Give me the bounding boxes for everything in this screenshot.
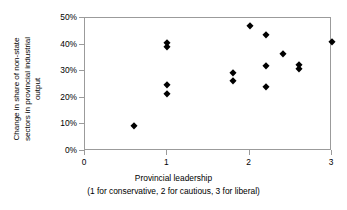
y-axis-tick-label: 40% xyxy=(44,39,77,48)
y-axis-tick-label: 10% xyxy=(44,119,77,128)
x-axis-tick-mark xyxy=(249,150,250,155)
x-axis-tick-label: 3 xyxy=(316,157,346,167)
y-axis-title-line-1: Change in share of non-state xyxy=(12,38,23,141)
x-axis-tick-label: 1 xyxy=(151,157,181,167)
y-axis-tick-label: 0% xyxy=(44,146,77,155)
x-axis-tick-label: 0 xyxy=(69,157,99,167)
data-point xyxy=(230,77,237,84)
x-axis-title: Provincial leadership xyxy=(0,173,347,184)
x-axis-subtitle: (1 for conservative, 2 for cautious, 3 f… xyxy=(0,186,347,197)
y-axis-title-line-3: output xyxy=(33,78,44,100)
x-axis-tick-mark xyxy=(84,150,85,155)
plot-area xyxy=(84,17,331,150)
data-point xyxy=(230,69,237,76)
x-axis-tick-mark xyxy=(166,150,167,155)
x-axis-tick-mark xyxy=(331,150,332,155)
data-point xyxy=(131,122,138,129)
data-point xyxy=(164,90,171,97)
x-axis-tick-label: 2 xyxy=(234,157,264,167)
y-axis-title: Change in share of non-state sectors in … xyxy=(8,14,48,164)
data-point xyxy=(262,62,269,69)
scatter-chart: Change in share of non-state sectors in … xyxy=(0,0,347,210)
y-axis-title-line-2: sectors in provincial industrial xyxy=(23,37,34,141)
data-point xyxy=(164,81,171,88)
y-axis-tick-label: 50% xyxy=(44,13,77,22)
y-axis-tick-label: 30% xyxy=(44,66,77,75)
data-point xyxy=(246,22,253,29)
data-point xyxy=(279,50,286,57)
data-point xyxy=(262,32,269,39)
data-point xyxy=(262,83,269,90)
y-axis-tick-label: 20% xyxy=(44,92,77,101)
data-point xyxy=(328,38,335,45)
data-point xyxy=(164,44,171,51)
